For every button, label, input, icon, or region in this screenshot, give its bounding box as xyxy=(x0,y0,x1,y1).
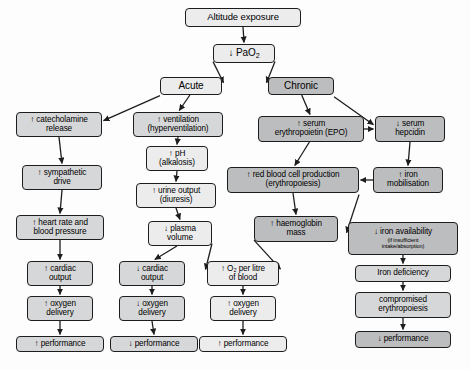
node-o2-litre: ↑ O₂ per litreof blood xyxy=(207,261,279,286)
node-oxygen-up: ↑ oxygendelivery xyxy=(27,296,93,321)
node-ventilation: ↑ ventilation(hyperventilation) xyxy=(133,112,223,137)
node-iron-mob: ↑ ironmobilisation xyxy=(373,167,443,193)
node-label-secondary: output xyxy=(141,274,163,283)
arrow-sympathetic-to-heartrate xyxy=(60,190,62,214)
node-label-primary: Chronic xyxy=(284,81,318,92)
node-label-secondary: delivery xyxy=(46,309,73,318)
node-label-secondary: of blood xyxy=(229,274,257,283)
node-label-secondary: drive xyxy=(53,178,70,187)
node-ph: ↑ pH(alkalosis) xyxy=(146,146,208,171)
arrow-acute-to-ventilation xyxy=(179,95,190,111)
node-plasma: ↓ plasmavolume xyxy=(148,221,212,246)
node-label-primary: ↓ performance xyxy=(128,340,179,349)
node-iron-avail: ↓ iron availability(if insufficientintak… xyxy=(348,222,458,255)
node-label-secondary: (hyperventilation) xyxy=(147,125,208,134)
node-label-secondary: (erythropoiesis) xyxy=(266,180,321,189)
node-label-primary: Acute xyxy=(178,81,203,92)
node-urine: ↑ urine output(diuresis) xyxy=(136,183,216,208)
node-label-note: intake/absorption) xyxy=(382,243,425,249)
arrow-epo-to-rbc xyxy=(295,142,310,166)
node-chronic: Chronic xyxy=(268,77,334,95)
node-label-primary: Iron deficiency xyxy=(377,269,428,278)
node-label-primary: ↓ iron availability xyxy=(374,228,432,237)
node-label-secondary: volume xyxy=(167,234,193,243)
node-cardiac-up: ↑ cardiacoutput xyxy=(27,261,93,286)
node-cardiac-down: ↓ cardiacoutput xyxy=(119,261,185,286)
node-epo: ↑ serumerythropoietin (EPO) xyxy=(258,116,364,142)
node-label-secondary: (alkalosis) xyxy=(159,159,195,168)
arrow-oxygen-down-to-perf xyxy=(152,321,154,335)
arrow-altitude-to-pao2 xyxy=(243,27,244,43)
arrow-chronic-to-epo xyxy=(302,95,310,115)
node-label-secondary: mobilisation xyxy=(387,180,429,189)
node-label-secondary: blood pressure xyxy=(34,228,87,237)
node-label-primary: Altitude exposure xyxy=(207,12,279,22)
subscript: 2 xyxy=(256,50,260,59)
arrow-ventilation-to-ph xyxy=(177,137,178,145)
node-hepcidin: ↓ serumhepcidin xyxy=(375,116,445,142)
flowchart-canvas: Altitude exposure↓ PaO2AcuteChronic↑ cat… xyxy=(0,0,470,370)
node-perf-down-2: ↓ performance xyxy=(355,331,451,348)
node-oxygen-up-2: ↑ oxygendelivery xyxy=(210,296,276,321)
node-label-secondary: mass xyxy=(286,229,305,238)
node-label-secondary: delivery xyxy=(138,309,165,318)
node-label-secondary: output xyxy=(49,274,71,283)
node-compromised: compromisederythropoiesis xyxy=(355,292,451,318)
node-perf-down-1: ↓ performance xyxy=(110,336,198,352)
arrow-catecholamine-to-sympathetic xyxy=(59,137,62,164)
node-label-secondary: release xyxy=(46,125,72,134)
node-oxygen-down: ↓ oxygendelivery xyxy=(119,296,185,321)
node-rbc: ↑ red blood cell production(erythropoies… xyxy=(227,167,359,193)
node-label-secondary: delivery xyxy=(229,309,256,318)
arrow-ph-to-urine xyxy=(176,171,177,182)
node-haemoglobin: ↑ haemoglobinmass xyxy=(254,216,338,242)
node-label-secondary: erythropoietin (EPO) xyxy=(275,129,348,138)
node-sympathetic: ↑ sympatheticdrive xyxy=(22,165,102,190)
node-label-primary: ↑ performance xyxy=(34,340,85,349)
node-label-secondary: erythropoiesis xyxy=(378,305,428,314)
node-altitude: Altitude exposure xyxy=(185,8,301,27)
node-label-primary: ↑ performance xyxy=(217,340,268,349)
node-catecholamine: ↑ catecholaminerelease xyxy=(16,112,102,137)
node-acute: Acute xyxy=(160,77,222,95)
arrow-rbc-to-haemoglobin xyxy=(293,193,296,215)
node-label-secondary: (diuresis) xyxy=(160,196,193,205)
node-perf-up-1: ↑ performance xyxy=(16,336,104,352)
arrow-hepcidin-to-iron-mob xyxy=(408,142,410,166)
node-label-primary: ↓ performance xyxy=(377,335,428,344)
arrow-plasma-to-cardiac-down xyxy=(155,246,177,260)
node-pao2: ↓ PaO2 xyxy=(213,44,275,63)
node-label-primary: ↓ PaO2 xyxy=(228,48,259,59)
arrow-urine-to-plasma xyxy=(176,208,180,220)
node-label-secondary: hepcidin xyxy=(395,129,425,138)
node-perf-up-2: ↑ performance xyxy=(199,336,287,352)
node-iron-def: Iron deficiency xyxy=(355,265,451,282)
node-heartrate: ↑ heart rate andblood pressure xyxy=(16,215,104,240)
